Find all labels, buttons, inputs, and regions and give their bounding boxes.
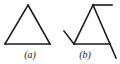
figure-a-label: (a): [0, 50, 60, 60]
figure-panel: (a) (b): [0, 0, 120, 64]
triangle-b-left-edge: [74, 5, 93, 44]
figure-b-label: (b): [54, 50, 116, 60]
figure-b: (b): [58, 0, 120, 64]
triangle-b-right-edge: [93, 5, 110, 44]
triangle-a-right-edge: [28, 5, 50, 44]
triangle-a-left-edge: [5, 5, 28, 44]
triangle-b-left-edge-overshoot: [64, 31, 74, 44]
figure-a: (a): [0, 0, 60, 64]
